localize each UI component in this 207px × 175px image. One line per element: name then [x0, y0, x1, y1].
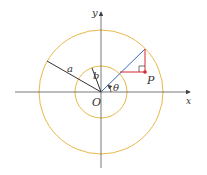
theta-ray — [101, 49, 145, 92]
origin-label: O — [92, 96, 101, 109]
point-p-label: P — [146, 74, 155, 87]
y-axis-label: y — [91, 7, 98, 18]
theta-label: θ — [113, 82, 119, 93]
outer-radius-label: a — [67, 63, 73, 74]
parametric-ellipse-diagram: y x O a b θ P — [0, 0, 207, 175]
x-axis-label: x — [186, 96, 191, 106]
inner-radius-label: b — [93, 70, 99, 81]
theta-arc-icon — [108, 85, 111, 92]
